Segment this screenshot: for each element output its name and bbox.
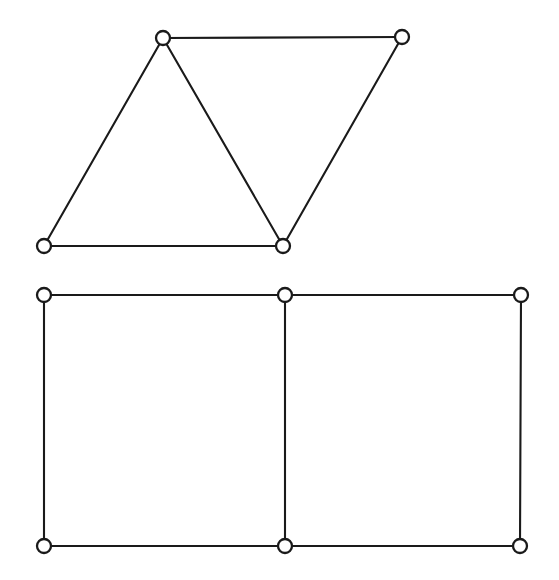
- graph-diagram-canvas: [0, 0, 559, 580]
- lower-graph-edges: [44, 295, 521, 546]
- graph-vertex-u4: [276, 239, 290, 253]
- upper-graph-edges: [44, 37, 402, 246]
- graph-vertex-l2: [278, 288, 292, 302]
- graph-edge: [163, 37, 402, 38]
- graph-vertex-l4: [37, 539, 51, 553]
- graph-edge: [283, 37, 402, 246]
- graph-vertex-u1: [156, 31, 170, 45]
- graph-vertex-u2: [395, 30, 409, 44]
- lower-graph-nodes: [37, 288, 528, 553]
- graph-vertex-l1: [37, 288, 51, 302]
- graph-vertex-l3: [514, 288, 528, 302]
- graph-edge: [44, 38, 163, 246]
- graph-vertex-l5: [278, 539, 292, 553]
- lower-graph: [37, 288, 528, 553]
- graph-vertex-l6: [513, 539, 527, 553]
- graph-edge: [520, 295, 521, 546]
- graph-edge: [163, 38, 283, 246]
- graph-vertex-u3: [37, 239, 51, 253]
- upper-graph: [37, 30, 409, 253]
- figure-root: [0, 0, 559, 580]
